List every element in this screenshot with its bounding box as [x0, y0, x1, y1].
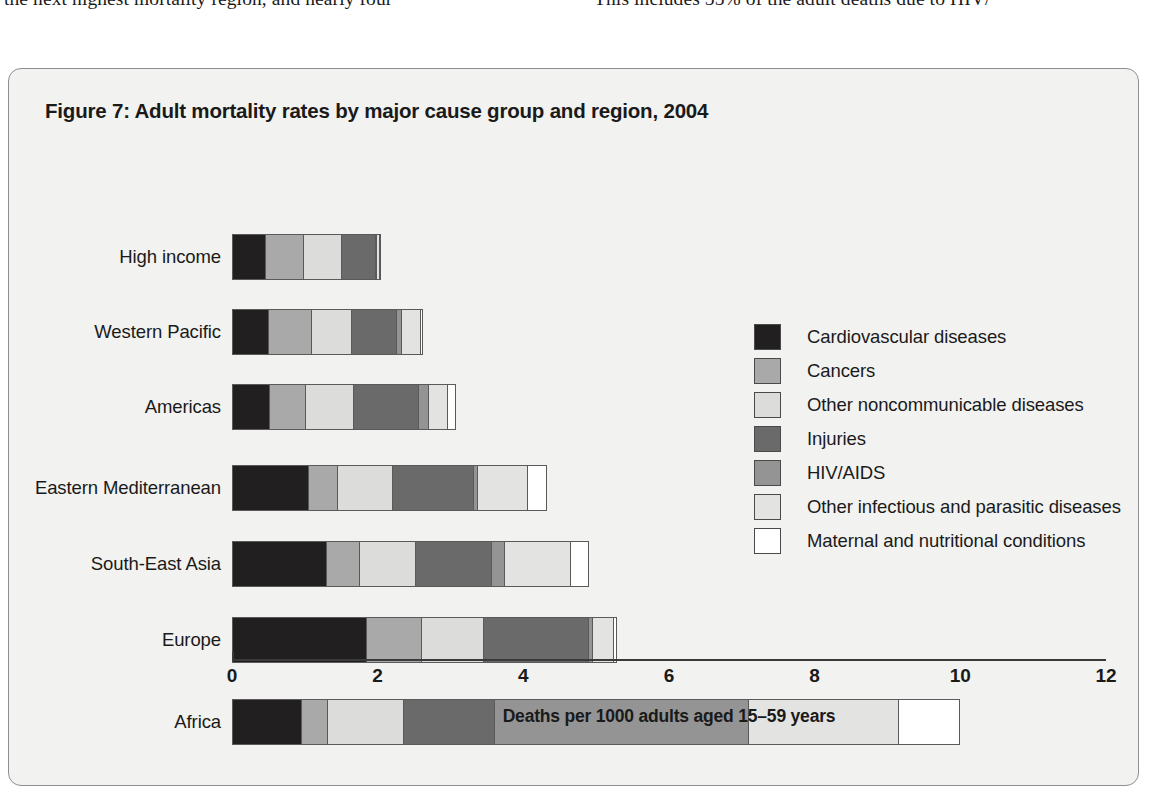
x-tick-label-12: 12: [1095, 665, 1116, 687]
chart-plot-area: High incomeWestern PacificAmericasEaster…: [9, 69, 1140, 787]
legend-label-cancers: Cancers: [807, 360, 875, 382]
bar-segment-other-infectious-and-parasitic-diseases: [477, 465, 529, 511]
bar-segment-cancers: [265, 234, 304, 280]
bar-segment-cardiovascular-diseases: [232, 309, 269, 355]
category-label-wrapper: High income: [0, 234, 221, 280]
category-label-wrapper: Africa: [0, 699, 221, 745]
page-running-text: the next highest mortality region, and n…: [0, 0, 1153, 26]
bar-segment-other-infectious-and-parasitic-diseases: [592, 617, 615, 663]
bar-segment-other-noncommunicable-diseases: [359, 541, 416, 587]
category-label-wrapper: Eastern Mediterranean: [0, 465, 221, 511]
bar-segment-other-noncommunicable-diseases: [421, 617, 484, 663]
legend-item: Maternal and nutritional conditions: [754, 524, 1121, 558]
legend-item: Injuries: [754, 422, 1121, 456]
bar-segment-maternal-and-nutritional-conditions: [447, 384, 455, 430]
legend-swatch-maternal-and-nutritional-conditions: [754, 528, 781, 554]
bar-segment-cardiovascular-diseases: [232, 617, 367, 663]
legend-label-other-infectious-and-parasitic-diseases: Other infectious and parasitic diseases: [807, 496, 1121, 518]
legend-item: Other infectious and parasitic diseases: [754, 490, 1121, 524]
bar-segment-maternal-and-nutritional-conditions: [570, 541, 589, 587]
category-label-wrapper: Western Pacific: [0, 309, 221, 355]
x-axis-line: [232, 659, 1106, 661]
legend-label-hiv-aids: HIV/AIDS: [807, 462, 885, 484]
legend-item: Cancers: [754, 354, 1121, 388]
category-label-south-east-asia: South-East Asia: [0, 553, 221, 575]
bar-segment-other-noncommunicable-diseases: [305, 384, 355, 430]
bar-segment-other-noncommunicable-diseases: [303, 234, 342, 280]
bar-segment-other-infectious-and-parasitic-diseases: [428, 384, 449, 430]
bar-segment-cardiovascular-diseases: [232, 234, 266, 280]
bar-segment-cancers: [366, 617, 421, 663]
category-label-europe: Europe: [0, 629, 221, 651]
x-tick-label-8: 8: [809, 665, 820, 687]
bar-segment-maternal-and-nutritional-conditions: [527, 465, 546, 511]
stacked-bar: [232, 384, 456, 430]
stacked-bar: [232, 234, 381, 280]
category-label-western-pacific: Western Pacific: [0, 321, 221, 343]
bar-row: High income: [9, 234, 1140, 280]
body-text-left-column: the next highest mortality region, and n…: [4, 0, 560, 10]
legend-item: HIV/AIDS: [754, 456, 1121, 490]
legend-label-other-noncommunicable-diseases: Other noncommunicable diseases: [807, 394, 1084, 416]
body-text-right-column: This includes 55% of the adult deaths du…: [594, 0, 1150, 10]
bar-segment-injuries: [483, 617, 589, 663]
category-label-wrapper: Americas: [0, 384, 221, 430]
legend-swatch-other-infectious-and-parasitic-diseases: [754, 494, 781, 520]
bar-segment-maternal-and-nutritional-conditions: [379, 234, 381, 280]
figure-panel: Figure 7: Adult mortality rates by major…: [8, 68, 1139, 786]
stacked-bar: [232, 617, 617, 663]
bar-segment-injuries: [392, 465, 474, 511]
legend-swatch-other-noncommunicable-diseases: [754, 392, 781, 418]
bar-segment-maternal-and-nutritional-conditions: [420, 309, 422, 355]
bar-segment-cardiovascular-diseases: [232, 384, 270, 430]
legend-label-maternal-and-nutritional-conditions: Maternal and nutritional conditions: [807, 530, 1085, 552]
bar-segment-maternal-and-nutritional-conditions: [613, 617, 616, 663]
category-label-wrapper: Europe: [0, 617, 221, 663]
bar-segment-other-infectious-and-parasitic-diseases: [401, 309, 422, 355]
x-tick-label-2: 2: [372, 665, 383, 687]
bar-segment-injuries: [341, 234, 376, 280]
legend-label-cardiovascular-diseases: Cardiovascular diseases: [807, 326, 1006, 348]
x-tick-label-0: 0: [227, 665, 238, 687]
bar-segment-injuries: [353, 384, 419, 430]
bar-segment-other-noncommunicable-diseases: [337, 465, 392, 511]
legend-swatch-hiv-aids: [754, 460, 781, 486]
x-tick-label-4: 4: [518, 665, 529, 687]
x-axis-title: Deaths per 1000 adults aged 15–59 years: [232, 706, 1106, 727]
legend-item: Cardiovascular diseases: [754, 320, 1121, 354]
bar-segment-other-infectious-and-parasitic-diseases: [504, 541, 570, 587]
stacked-bar: [232, 309, 423, 355]
bar-segment-cancers: [326, 541, 360, 587]
category-label-eastern-mediterranean: Eastern Mediterranean: [0, 477, 221, 499]
category-label-high-income: High income: [0, 246, 221, 268]
category-label-africa: Africa: [0, 711, 221, 733]
bar-segment-other-noncommunicable-diseases: [311, 309, 352, 355]
category-label-americas: Americas: [0, 396, 221, 418]
bar-segment-cardiovascular-diseases: [232, 465, 309, 511]
legend-swatch-cancers: [754, 358, 781, 384]
stacked-bar: [232, 541, 589, 587]
legend-swatch-cardiovascular-diseases: [754, 324, 781, 350]
bar-segment-injuries: [415, 541, 492, 587]
legend-swatch-injuries: [754, 426, 781, 452]
x-tick-label-6: 6: [664, 665, 675, 687]
bar-segment-cancers: [269, 384, 306, 430]
x-axis-origin-tick: [232, 652, 234, 661]
bar-row: Europe: [9, 617, 1140, 663]
legend-item: Other noncommunicable diseases: [754, 388, 1121, 422]
bar-segment-cancers: [308, 465, 338, 511]
x-tick-label-10: 10: [950, 665, 971, 687]
category-label-wrapper: South-East Asia: [0, 541, 221, 587]
bar-segment-hiv-aids: [491, 541, 505, 587]
stacked-bar: [232, 465, 547, 511]
legend-label-injuries: Injuries: [807, 428, 866, 450]
bar-segment-cancers: [268, 309, 312, 355]
bar-segment-cardiovascular-diseases: [232, 541, 327, 587]
chart-legend: Cardiovascular diseasesCancersOther nonc…: [754, 320, 1121, 558]
bar-segment-injuries: [351, 309, 398, 355]
